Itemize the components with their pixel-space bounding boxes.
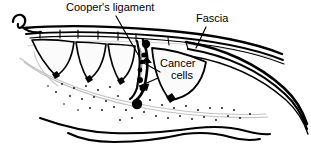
label-cancer-cells-line1: Cancer bbox=[160, 57, 195, 69]
skin-curl bbox=[13, 15, 41, 33]
breast-cross-section-illustration bbox=[0, 0, 311, 153]
label-coopers-ligament: Cooper's ligament bbox=[66, 2, 154, 14]
label-fascia: Fascia bbox=[196, 13, 228, 25]
fascia-sweep-right bbox=[186, 42, 308, 134]
label-cancer-cells-line2: cells bbox=[171, 70, 193, 82]
diagram-canvas: Cooper's ligament Fascia Cancercells bbox=[0, 0, 311, 153]
chest-wall-outline bbox=[40, 118, 270, 142]
label-cancer-cells: Cancercells bbox=[160, 58, 195, 81]
fat-tissue-stipple bbox=[47, 83, 251, 121]
isolated-cancer-cell bbox=[132, 99, 142, 109]
